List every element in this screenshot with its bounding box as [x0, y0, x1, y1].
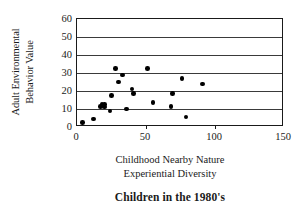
data-point: [180, 76, 185, 81]
y-tick-label-50: 50: [48, 31, 72, 42]
scatter-chart-figure: Adult Environmental Behavior Value 01020…: [0, 0, 303, 215]
x-tickmark-50: [146, 125, 147, 129]
data-point: [116, 80, 121, 85]
x-tickmark-100: [215, 125, 216, 129]
plot-area: [76, 18, 283, 126]
data-point: [80, 120, 85, 125]
y-axis-title-line-2: Behavior Value: [23, 40, 37, 103]
chart-title: Children in the 1980's: [60, 190, 280, 204]
data-point: [184, 115, 189, 120]
data-point: [169, 104, 174, 109]
y-axis-tick-labels: 0102030405060: [48, 12, 72, 132]
data-point: [91, 117, 96, 122]
y-axis-title: Adult Environmental Behavior Value: [0, 16, 46, 128]
x-axis-title: Childhood Nearby Nature Experiential Div…: [60, 153, 280, 181]
data-point: [109, 93, 114, 98]
data-point: [124, 107, 129, 112]
data-point: [131, 91, 136, 96]
data-point: [120, 73, 125, 78]
x-axis-title-line-2: Experiential Diversity: [60, 167, 280, 181]
data-point: [113, 66, 118, 71]
y-tick-label-40: 40: [48, 49, 72, 60]
gridline-y-40: [77, 55, 282, 56]
data-point: [151, 100, 156, 105]
data-point: [145, 66, 150, 71]
y-tick-label-30: 30: [48, 67, 72, 78]
data-point: [170, 91, 175, 96]
x-tick-label-0: 0: [56, 131, 96, 143]
y-tick-label-60: 60: [48, 13, 72, 24]
x-tick-label-150: 150: [263, 131, 303, 143]
gridline-y-30: [77, 73, 282, 74]
x-tick-label-50: 50: [125, 131, 165, 143]
data-point: [108, 109, 113, 114]
gridline-y-20: [77, 91, 282, 92]
y-axis-title-line-1: Adult Environmental: [9, 28, 23, 115]
y-tick-label-0: 0: [48, 121, 72, 132]
x-axis-title-line-1: Childhood Nearby Nature: [60, 153, 280, 167]
y-tick-label-10: 10: [48, 103, 72, 114]
y-tick-label-20: 20: [48, 85, 72, 96]
x-axis-tick-labels: 050100150: [76, 131, 283, 145]
gridline-y-50: [77, 37, 282, 38]
data-point: [200, 82, 205, 87]
x-tick-label-100: 100: [194, 131, 234, 143]
